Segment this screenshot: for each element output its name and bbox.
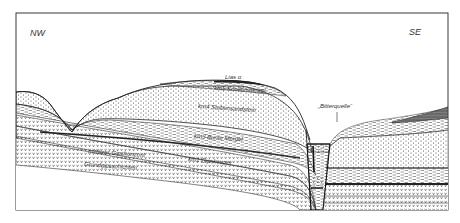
cross-section-figure: NW SE Lias α km5 Knollenmergel km4 Stube… <box>0 0 460 223</box>
layer-right-gipskeuper <box>324 185 448 210</box>
label-lias: Lias α <box>225 74 242 80</box>
label-spring: „Bitterquelle“ <box>317 103 353 109</box>
cross-section-svg: NW SE Lias α km5 Knollenmergel km4 Stube… <box>0 0 460 223</box>
direction-se: SE <box>409 27 422 37</box>
layer-right-bunte-mergel <box>325 168 448 184</box>
spring-conduit <box>313 146 314 172</box>
direction-nw: NW <box>30 28 46 38</box>
